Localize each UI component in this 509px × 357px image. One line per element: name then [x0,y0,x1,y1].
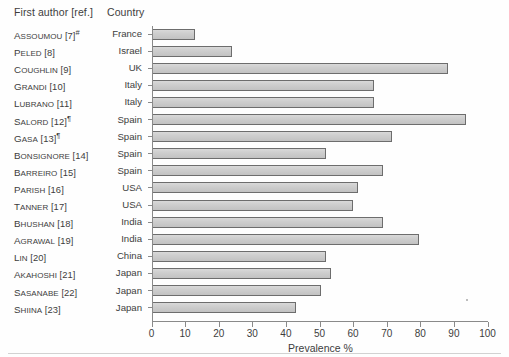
author-reference: [12] [48,116,67,127]
row-author-label: LIN [20] [14,250,46,263]
author-initial: S [14,304,21,315]
author-initial: P [14,47,21,58]
author-reference: [8] [42,47,55,58]
bar-track [152,60,488,77]
row-author-label: AGRAWAL [19] [14,233,73,246]
author-reference: [9] [58,64,71,75]
bar [152,80,374,91]
author-surname: ASANABE [21,289,59,298]
row-author-label: PARISH [16] [14,182,64,195]
row-country-label: India [92,233,142,244]
bar [152,148,326,159]
bar-track [152,43,488,60]
prevalence-bar-chart-figure: First author [ref.] Country ASSOUMOU [7]… [0,0,509,357]
author-surname: HIINA [21,306,43,315]
x-axis-tick-label: 20 [204,328,234,339]
row-author-label: TANNER [17] [14,199,67,212]
bar [152,302,296,313]
bar [152,114,466,125]
bar [152,234,419,245]
bar-track [152,180,488,197]
author-reference: [10] [47,81,66,92]
bar [152,63,448,74]
row-country-label: Israel [92,45,142,56]
row-country-label: Japan [92,302,142,313]
row-country-label: France [92,28,142,39]
chart-row: BONSIGNORE [14]Spain [0,146,509,163]
bar-track [152,112,488,129]
author-surname: GRAWAL [21,237,55,246]
author-reference: [22] [59,287,78,298]
header-first-author: First author [ref.] [14,6,93,18]
author-initial: B [14,150,21,161]
chart-row: BHUSHAN [18]India [0,214,509,231]
author-surname: ARREIRO [21,169,58,178]
author-reference: [16] [45,184,64,195]
x-axis-tick-label: 100 [473,328,503,339]
x-axis-tick-label: 10 [170,328,200,339]
bar [152,29,195,40]
author-reference: [21] [57,270,76,281]
author-initial: A [14,30,21,41]
author-initial: B [14,167,21,178]
author-reference: [11] [54,99,72,110]
plot-area: ASSOUMOU [7]#FrancePELED [8]IsraelCOUGHL… [0,26,509,321]
x-axis-tick [152,322,153,327]
chart-row: SASANABE [22]Japan [0,283,509,300]
row-author-label: BONSIGNORE [14] [14,148,88,161]
row-country-label: USA [92,199,142,210]
chart-row: COUGHLIN [9]UK [0,60,509,77]
author-reference: [20] [28,252,47,263]
bar-track [152,26,488,43]
author-surname: HUSHAN [21,220,55,229]
stray-speck [466,299,468,301]
chart-row: BARREIRO [15]Spain [0,163,509,180]
chart-row: GASA [13]¶Spain [0,129,509,146]
row-author-label: GRANDI [10] [14,79,65,92]
row-author-label: LUBRANO [11] [14,96,72,109]
row-country-label: Italy [92,79,142,90]
row-country-label: Spain [92,165,142,176]
y-axis-line [152,26,153,322]
chart-row: AKAHOSHI [21]Japan [0,265,509,282]
row-country-label: Spain [92,148,142,159]
row-country-label: China [92,250,142,261]
author-surname: RANDI [22,83,47,92]
author-initial: P [14,184,21,195]
x-axis-tick [286,322,287,327]
bar-track [152,129,488,146]
row-author-label: ASSOUMOU [7]# [14,28,80,41]
bar-track [152,214,488,231]
bar-track [152,283,488,300]
row-author-label: GASA [13]¶ [14,131,60,144]
author-surname: ASA [22,135,38,144]
author-surname: IN [20,254,28,263]
bar [152,251,326,262]
x-axis-tick [219,322,220,327]
column-headers: First author [ref.] Country [0,6,509,26]
author-surname: ONSIGNORE [21,152,70,161]
chart-row: PARISH [16]USA [0,180,509,197]
x-axis-tick [252,322,253,327]
author-initial: A [14,235,21,246]
row-country-label: Spain [92,131,142,142]
bar [152,165,383,176]
bar [152,268,331,279]
author-surname: SSOUMOU [21,32,63,41]
bar-track [152,248,488,265]
row-author-label: AKAHOSHI [21] [14,267,75,280]
row-country-label: India [92,216,142,227]
row-author-label: BHUSHAN [18] [14,216,73,229]
bar-track [152,146,488,163]
author-surname: ALORD [21,118,49,127]
bar [152,97,374,108]
bar-track [152,94,488,111]
row-country-label: USA [92,182,142,193]
x-axis-tick-label: 0 [137,328,167,339]
row-country-label: Japan [92,267,142,278]
chart-row: AGRAWAL [19]India [0,231,509,248]
bar-track [152,265,488,282]
row-author-label: SASANABE [22] [14,285,77,298]
header-country: Country [107,6,144,18]
author-footnote-marker: ¶ [56,131,60,140]
